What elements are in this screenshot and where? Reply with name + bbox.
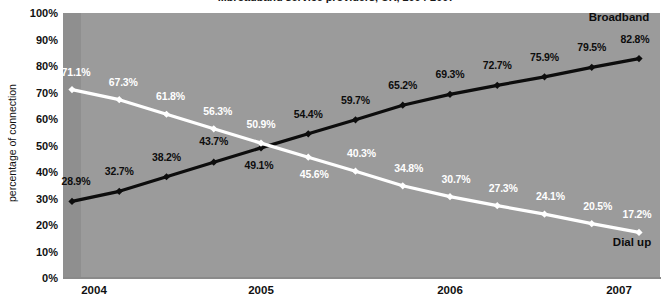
data-point-marker <box>399 182 406 189</box>
data-point-marker <box>541 73 548 80</box>
data-point-marker <box>635 229 642 236</box>
chart-title: ...broadband service providers, UK, 2004… <box>0 0 672 3</box>
data-point-label: 50.9% <box>247 118 276 130</box>
data-point-marker <box>588 64 595 71</box>
y-tick-label: 40% <box>4 166 58 178</box>
y-tick-label: 30% <box>4 193 58 205</box>
data-point-marker <box>68 86 75 93</box>
data-point-label: 82.8% <box>621 33 650 45</box>
y-tick-label: 20% <box>4 219 58 231</box>
data-point-marker <box>210 159 217 166</box>
data-point-marker <box>116 188 123 195</box>
data-point-marker <box>446 91 453 98</box>
data-point-label: 79.5% <box>577 41 606 53</box>
data-point-label: 43.7% <box>199 135 228 147</box>
data-point-marker <box>116 96 123 103</box>
data-point-label: 49.1% <box>245 159 274 171</box>
data-point-marker <box>494 202 501 209</box>
data-point-marker <box>352 168 359 175</box>
data-point-marker <box>352 116 359 123</box>
y-tick-label: 80% <box>4 60 58 72</box>
data-point-marker <box>163 173 170 180</box>
data-point-marker <box>541 211 548 218</box>
x-tick-label: 2006 <box>437 284 463 296</box>
series-lines <box>63 13 660 278</box>
data-point-label: 30.7% <box>442 173 471 185</box>
data-point-label: 45.6% <box>300 168 329 180</box>
y-tick-label: 0% <box>4 272 58 284</box>
y-tick-label: 10% <box>4 246 58 258</box>
x-tick-label: 2004 <box>81 284 107 296</box>
data-point-label: 34.8% <box>394 162 423 174</box>
series-line-broadband <box>72 59 639 202</box>
data-point-label: 67.3% <box>109 76 138 88</box>
data-point-marker <box>399 102 406 109</box>
y-axis-line <box>62 13 63 279</box>
y-tick-label: 60% <box>4 113 58 125</box>
data-point-label: 24.1% <box>536 190 565 202</box>
data-point-marker <box>305 154 312 161</box>
y-tick-label: 50% <box>4 140 58 152</box>
series-label-dial-up: Dial up <box>613 236 651 248</box>
x-tick-label: 2007 <box>606 284 632 296</box>
x-axis-line <box>63 277 661 279</box>
data-point-marker <box>588 220 595 227</box>
data-point-marker <box>305 130 312 137</box>
data-point-label: 69.3% <box>436 68 465 80</box>
data-point-label: 56.3% <box>203 105 232 117</box>
data-point-label: 38.2% <box>152 151 181 163</box>
line-chart: ...broadband service providers, UK, 2004… <box>0 0 672 308</box>
plot-area <box>63 13 660 278</box>
data-point-label: 65.2% <box>388 79 417 91</box>
data-point-label: 61.8% <box>156 90 185 102</box>
data-point-label: 54.4% <box>294 108 323 120</box>
data-point-label: 72.7% <box>483 59 512 71</box>
data-point-marker <box>163 111 170 118</box>
data-point-label: 17.2% <box>623 208 652 220</box>
data-point-marker <box>446 193 453 200</box>
data-point-marker <box>68 198 75 205</box>
series-label-broadband: Broadband <box>589 11 650 23</box>
data-point-label: 40.3% <box>347 147 376 159</box>
y-axis-tick-labels: 0%10%20%30%40%50%60%70%80%90%100% <box>0 0 58 308</box>
x-tick-label: 2005 <box>248 284 274 296</box>
data-point-label: 32.7% <box>105 165 134 177</box>
data-point-marker <box>494 82 501 89</box>
data-point-label: 28.9% <box>62 175 91 187</box>
data-point-label: 59.7% <box>341 94 370 106</box>
y-tick-label: 90% <box>4 34 58 46</box>
data-point-label: 27.3% <box>489 182 518 194</box>
data-point-label: 71.1% <box>62 66 91 78</box>
data-point-label: 75.9% <box>530 51 559 63</box>
data-point-label: 20.5% <box>583 200 612 212</box>
data-point-marker <box>210 125 217 132</box>
data-point-marker <box>635 55 642 62</box>
y-tick-label: 100% <box>4 7 58 19</box>
y-tick-label: 70% <box>4 87 58 99</box>
